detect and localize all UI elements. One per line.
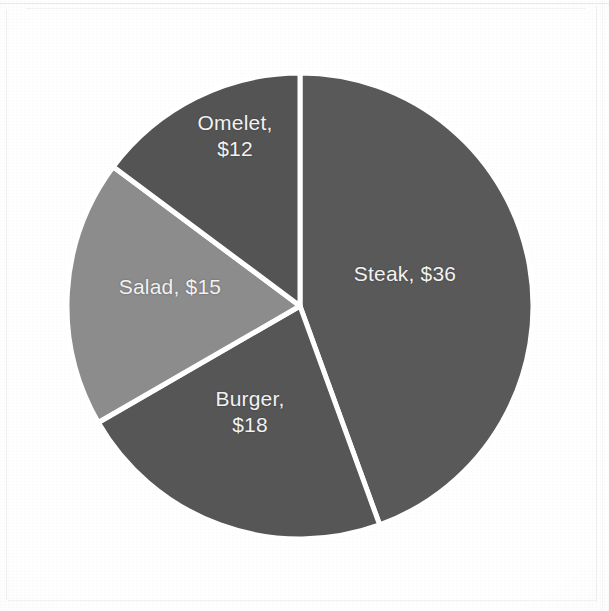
pie-chart-svg xyxy=(0,0,609,611)
pie-chart-page: Steak, $36 Burger, $18 Salad, $15 Omelet… xyxy=(0,0,609,611)
pie-chart: Steak, $36 Burger, $18 Salad, $15 Omelet… xyxy=(0,0,609,611)
